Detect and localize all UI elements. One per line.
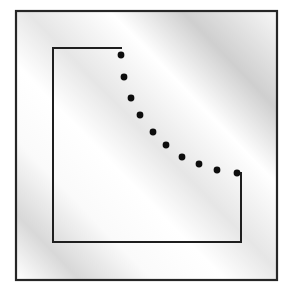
diagonal-gradient-fill: [17, 12, 276, 279]
path-dot: [118, 52, 125, 59]
path-dot: [196, 161, 203, 168]
path-dot: [163, 142, 170, 149]
path-dot: [150, 129, 157, 136]
path-dot: [179, 154, 186, 161]
path-dot: [128, 95, 135, 102]
path-dot: [234, 170, 241, 177]
path-dot: [121, 74, 128, 81]
path-dot: [137, 112, 144, 119]
figure-canvas: [0, 0, 292, 291]
figure-container: [0, 0, 292, 291]
path-dot: [214, 167, 221, 174]
